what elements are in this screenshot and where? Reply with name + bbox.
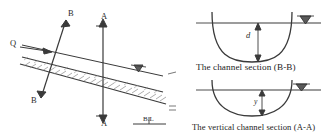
channel-bed-line xyxy=(20,64,166,104)
section-aa-caption: The vertical channel section (A-A) xyxy=(192,123,315,132)
section-bb-arrow-top xyxy=(61,20,70,27)
section-a-top-label: A xyxy=(101,12,107,21)
section-bb-caption: The channel section (B-B) xyxy=(196,63,296,72)
section-aa-depth-dimension xyxy=(259,90,265,116)
depth-d-label: d xyxy=(246,31,250,40)
discharge-label: Q xyxy=(10,39,16,48)
bed-level-label: B.L xyxy=(143,116,154,123)
section-aa-channel-wall xyxy=(212,80,292,116)
section-b-bottom-label: B xyxy=(31,96,37,105)
section-bb-depth-dimension xyxy=(255,23,261,62)
section-b-top-label: B xyxy=(68,9,74,18)
left-edge-marks xyxy=(168,72,176,110)
water-surface-near-line xyxy=(22,57,163,92)
bed-hatching xyxy=(24,62,166,101)
section-a-bottom-label: A xyxy=(101,119,107,128)
water-level-triangle-plan xyxy=(131,65,146,72)
section-line-bb xyxy=(37,20,70,98)
section-bb-axis xyxy=(41,20,66,98)
section-bb-arrow-bottom xyxy=(37,91,46,98)
channel-flow-diagram: B B A A Q B.L d y The channel section (B… xyxy=(0,0,333,138)
section-bb-channel-wall xyxy=(212,12,292,62)
depth-y-label: y xyxy=(254,98,257,106)
section-line-aa xyxy=(96,19,107,123)
